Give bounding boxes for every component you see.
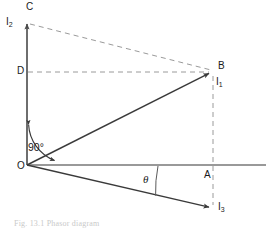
- theta-angle-arc: [156, 166, 158, 196]
- label-current-i2-subscript: 2: [9, 21, 13, 28]
- label-current-i1: I1: [216, 77, 223, 87]
- phasor-diagram-figure: C I2 D O 90° A B I1 I3 θ Fig. 13.1 Phaso…: [0, 0, 270, 231]
- label-current-i3: I3: [218, 202, 225, 212]
- label-point-o: O: [17, 161, 25, 171]
- phasor-i1-vector: [27, 73, 209, 165]
- label-current-i2: I2: [6, 17, 13, 27]
- label-theta-angle: θ: [143, 174, 148, 185]
- label-point-d: D: [17, 66, 24, 76]
- dashed-line-c-to-b: [30, 24, 211, 70]
- label-point-c: C: [26, 2, 33, 12]
- phasor-i3-vector: [27, 165, 209, 207]
- figure-caption: Fig. 13.1 Phasor diagram: [14, 219, 99, 228]
- label-point-b: B: [218, 61, 225, 71]
- label-right-angle: 90°: [28, 142, 44, 153]
- phasor-diagram-canvas: [0, 0, 270, 231]
- label-current-i3-subscript: 3: [221, 206, 225, 213]
- label-point-a: A: [204, 170, 211, 180]
- label-current-i1-subscript: 1: [219, 81, 223, 88]
